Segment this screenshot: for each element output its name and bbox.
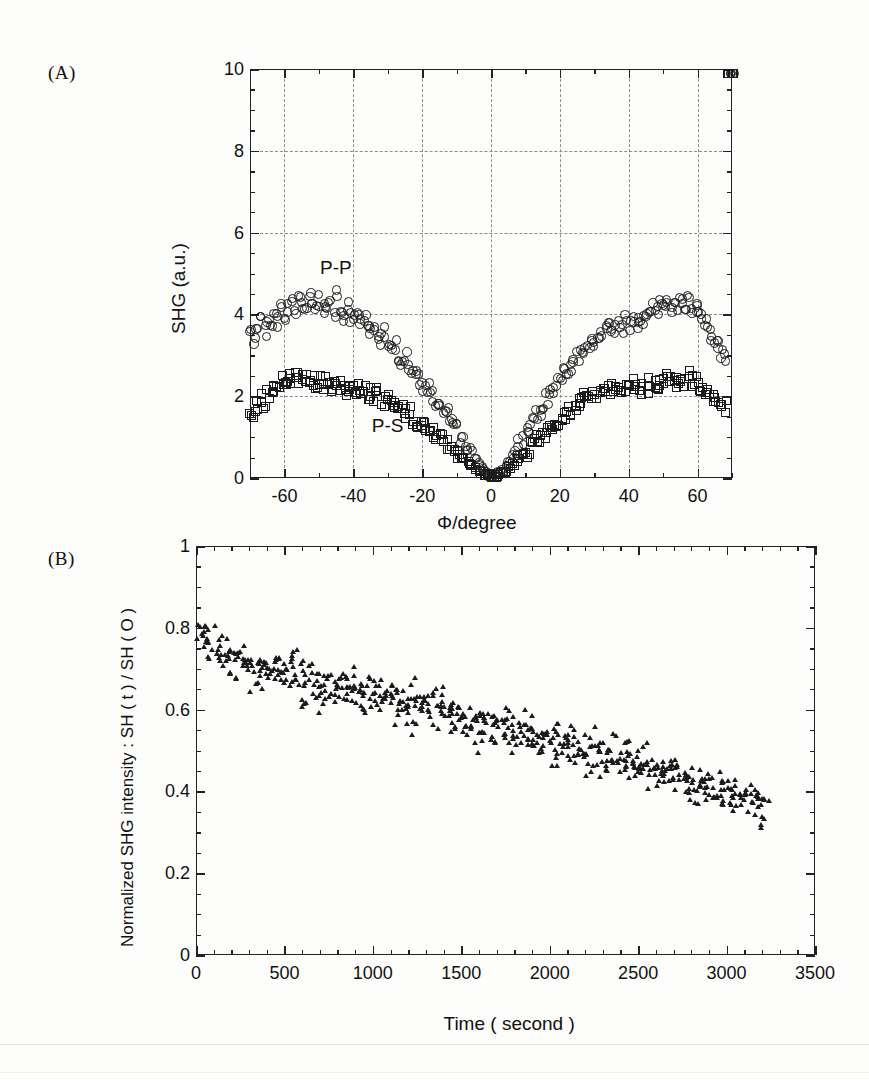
major-tick-x: [422, 469, 424, 478]
minor-tick-x: [762, 950, 763, 955]
minor-tick-x: [762, 546, 763, 551]
minor-tick-y: [727, 192, 732, 193]
major-tick-x: [815, 946, 817, 955]
x-axis-label-a: Φ/degree: [437, 512, 517, 534]
data-point-normalized-shg: [720, 802, 726, 807]
data-point-normalized-shg: [292, 677, 298, 682]
minor-tick-y: [810, 689, 815, 690]
major-tick-y: [806, 546, 815, 548]
data-point-normalized-shg: [709, 775, 715, 780]
x-tick-label: -40: [340, 486, 366, 507]
major-tick-x: [284, 469, 286, 478]
data-point-normalized-shg: [292, 672, 298, 677]
data-point-p-p: [380, 322, 389, 331]
minor-tick-y: [196, 853, 201, 854]
major-tick-x: [373, 946, 375, 955]
data-point-normalized-shg: [483, 720, 489, 725]
data-point-normalized-shg: [247, 689, 253, 694]
data-point-normalized-shg: [522, 707, 528, 712]
data-point-normalized-shg: [306, 677, 312, 682]
data-point-p-p: [402, 347, 411, 356]
minor-tick-y: [727, 274, 732, 275]
data-point-normalized-shg: [376, 683, 382, 688]
major-tick-y: [250, 69, 259, 71]
minor-tick-x: [532, 546, 533, 551]
y-tick-label: 6: [210, 222, 244, 243]
minor-tick-y: [810, 587, 815, 588]
data-point-normalized-shg: [296, 682, 302, 687]
minor-tick-y: [250, 110, 255, 111]
data-point-normalized-shg: [464, 732, 470, 737]
data-point-normalized-shg: [626, 775, 632, 780]
minor-tick-y: [196, 894, 201, 895]
minor-tick-y: [250, 89, 255, 90]
data-point-normalized-shg: [309, 661, 315, 666]
major-tick-y: [723, 233, 732, 235]
minor-tick-y: [196, 935, 201, 936]
data-point-normalized-shg: [501, 732, 507, 737]
major-tick-x: [491, 69, 493, 78]
data-point-normalized-shg: [378, 677, 384, 682]
data-point-p-p: [458, 432, 467, 441]
major-tick-y: [196, 955, 205, 957]
gridline-horizontal: [250, 233, 732, 234]
data-point-normalized-shg: [351, 673, 357, 678]
data-point-normalized-shg: [205, 627, 211, 632]
minor-tick-y: [250, 192, 255, 193]
minor-tick-y: [196, 832, 201, 833]
minor-tick-x: [391, 546, 392, 551]
data-point-normalized-shg: [300, 658, 306, 663]
data-point-normalized-shg: [224, 636, 230, 641]
data-point-normalized-shg: [430, 693, 436, 698]
data-point-normalized-shg: [456, 705, 462, 710]
major-tick-y: [196, 710, 205, 712]
minor-tick-x: [388, 473, 389, 478]
minor-tick-y: [250, 458, 255, 459]
data-point-normalized-shg: [320, 701, 326, 706]
data-point-normalized-shg: [360, 706, 366, 711]
data-point-normalized-shg: [540, 743, 546, 748]
data-point-normalized-shg: [395, 712, 401, 717]
data-point-normalized-shg: [263, 671, 269, 676]
data-point-normalized-shg: [689, 765, 695, 770]
minor-tick-x: [663, 69, 664, 74]
data-point-normalized-shg: [405, 710, 411, 715]
minor-tick-y: [196, 669, 201, 670]
data-point-normalized-shg: [332, 679, 338, 684]
minor-tick-y: [810, 648, 815, 649]
data-point-normalized-shg: [412, 675, 418, 680]
x-tick-label: 2000: [530, 963, 570, 984]
minor-tick-x: [620, 546, 621, 551]
minor-tick-y: [810, 566, 815, 567]
data-point-p-p: [251, 333, 260, 342]
major-tick-x: [727, 546, 729, 555]
data-point-normalized-shg: [597, 774, 603, 779]
data-point-normalized-shg: [204, 636, 210, 641]
major-tick-x: [629, 469, 631, 478]
data-point-normalized-shg: [597, 749, 603, 754]
major-tick-y: [806, 628, 815, 630]
gridline-vertical: [491, 69, 492, 478]
x-tick-label: 3000: [707, 963, 747, 984]
minor-tick-x: [355, 546, 356, 551]
minor-tick-x: [709, 950, 710, 955]
major-tick-y: [806, 955, 815, 957]
y-tick-label: 0: [210, 468, 244, 489]
data-point-normalized-shg: [752, 812, 758, 817]
x-tick-label: -20: [409, 486, 435, 507]
minor-tick-x: [744, 950, 745, 955]
data-point-normalized-shg: [652, 772, 658, 777]
data-point-normalized-shg: [195, 622, 201, 627]
minor-tick-y: [727, 171, 732, 172]
minor-tick-x: [457, 473, 458, 478]
data-point-normalized-shg: [509, 750, 515, 755]
data-point-normalized-shg: [529, 713, 535, 718]
minor-tick-x: [656, 546, 657, 551]
major-tick-x: [815, 546, 817, 555]
data-point-normalized-shg: [604, 768, 610, 773]
gridline-vertical: [698, 69, 699, 478]
data-point-normalized-shg: [241, 643, 247, 648]
minor-tick-y: [727, 212, 732, 213]
minor-tick-x: [780, 950, 781, 955]
data-point-p-p: [720, 349, 729, 358]
